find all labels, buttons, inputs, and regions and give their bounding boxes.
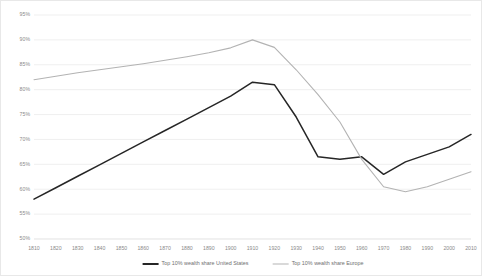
x-tick-label: 1960 xyxy=(356,245,368,251)
y-tick-label: 90% xyxy=(20,36,31,42)
y-tick-label: 65% xyxy=(20,161,31,167)
x-tick-label: 1980 xyxy=(400,245,412,251)
x-tick-label: 1920 xyxy=(269,245,281,251)
chart-figure: 95%90%85%80%75%70%65%60%55%50% 181018201… xyxy=(0,0,482,276)
x-tick-label: 2000 xyxy=(443,245,455,251)
x-tick-label: 1870 xyxy=(159,245,171,251)
legend-label-0: Top 10% wealth share United States xyxy=(162,260,249,266)
x-tick-label: 1850 xyxy=(116,245,128,251)
y-tick-label: 70% xyxy=(20,136,31,142)
y-tick-label: 85% xyxy=(20,61,31,67)
y-axis-tick-labels: 95%90%85%80%75%70%65%60%55%50% xyxy=(20,11,31,241)
x-axis-tick-labels: 1810182018301840185018601870188018901900… xyxy=(28,245,477,251)
x-tick-label: 1910 xyxy=(247,245,259,251)
x-tick-label: 1830 xyxy=(72,245,84,251)
chart-legend: Top 10% wealth share United StatesTop 10… xyxy=(143,260,364,266)
data-series-group xyxy=(34,40,471,199)
x-tick-label: 1990 xyxy=(422,245,434,251)
x-tick-label: 1810 xyxy=(28,245,40,251)
y-tick-label: 75% xyxy=(20,111,31,117)
y-tick-label: 55% xyxy=(20,210,31,216)
x-tick-label: 1970 xyxy=(378,245,390,251)
line-chart: 95%90%85%80%75%70%65%60%55%50% 181018201… xyxy=(1,1,482,276)
x-tick-label: 2010 xyxy=(465,245,477,251)
x-tick-label: 1950 xyxy=(334,245,346,251)
y-tick-label: 50% xyxy=(20,235,31,241)
gridlines xyxy=(34,15,471,239)
x-tick-label: 1860 xyxy=(137,245,149,251)
series-line-0 xyxy=(34,82,471,199)
legend-label-1: Top 10% wealth share Europe xyxy=(292,260,364,266)
x-tick-label: 1840 xyxy=(94,245,106,251)
x-tick-label: 1900 xyxy=(225,245,237,251)
x-tick-label: 1880 xyxy=(181,245,193,251)
x-tick-label: 1930 xyxy=(290,245,302,251)
y-tick-label: 95% xyxy=(20,11,31,17)
x-tick-label: 1820 xyxy=(50,245,62,251)
x-tick-label: 1940 xyxy=(312,245,324,251)
y-tick-label: 80% xyxy=(20,86,31,92)
y-tick-label: 60% xyxy=(20,186,31,192)
series-line-1 xyxy=(34,40,471,192)
x-tick-label: 1890 xyxy=(203,245,215,251)
